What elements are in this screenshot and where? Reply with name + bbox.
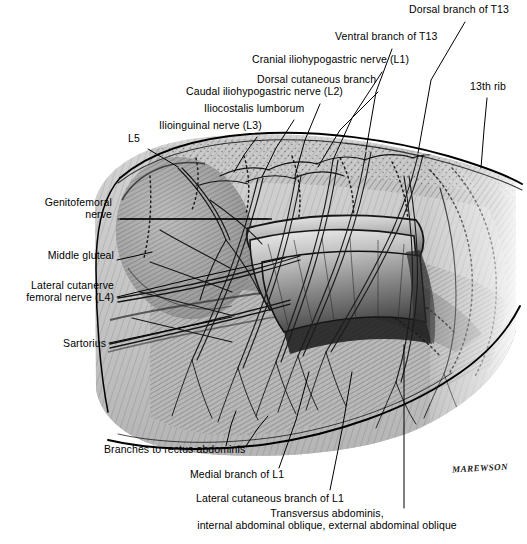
label-lateral-cutanerve-femoral-nerve-l4-line2: femoral nerve (L4) [0,291,114,303]
label-genitofemoral-nerve-line1: Genitofemoral [0,196,112,208]
right-margin-fade [430,125,527,470]
label-transversus-abdominis-group: Transversus abdominis, internal abdomina… [152,507,502,531]
label-iliocostalis-lumborum: Iliocostalis lumborum [204,102,304,114]
label-dorsal-branch-of-t13: Dorsal branch of T13 [409,3,509,15]
label-branches-to-rectus-abdominis: Branches to rectus abdominis [104,443,245,455]
label-lateral-cutanerve-femoral-nerve-l4-line1: Lateral cutanerve [0,279,114,291]
leader-thirteenth-rib [481,98,487,168]
label-genitofemoral-nerve: Genitofemoral nerve [0,196,112,220]
label-medial-branch-of-l1: Medial branch of L1 [190,468,284,480]
label-sartorius: Sartorius [0,337,106,349]
label-cranial-iliohypogastric-nerve-l1: Cranial iliohypogastric nerve (L1) [252,53,409,65]
label-ilioinguinal-nerve-l3: Ilioinguinal nerve (L3) [159,119,262,131]
label-dorsal-cutaneous-branch: Dorsal cutaneous branch [257,73,376,85]
anatomical-illustration-figure: Dorsal branch of T13 Ventral branch of T… [0,0,527,544]
label-l5: L5 [128,132,140,144]
body-mass [80,125,527,470]
label-transversus-abdominis-line1: Transversus abdominis, [152,507,502,519]
label-caudal-iliohypogastric-nerve-l2: Caudal iliohypogastric nerve (L2) [186,85,343,97]
label-lateral-cutaneous-branch-of-l1: Lateral cutaneous branch of L1 [196,492,344,504]
label-middle-gluteal: Middle gluteal [0,249,114,261]
label-genitofemoral-nerve-line2: nerve [0,208,112,220]
label-transversus-abdominis-line2: internal abdominal oblique, external abd… [152,519,502,531]
label-13th-rib: 13th rib [470,80,506,92]
label-lateral-cutanerve-femoral-nerve-l4: Lateral cutanerve femoral nerve (L4) [0,279,114,303]
label-ventral-branch-of-t13: Ventral branch of T13 [335,30,437,42]
